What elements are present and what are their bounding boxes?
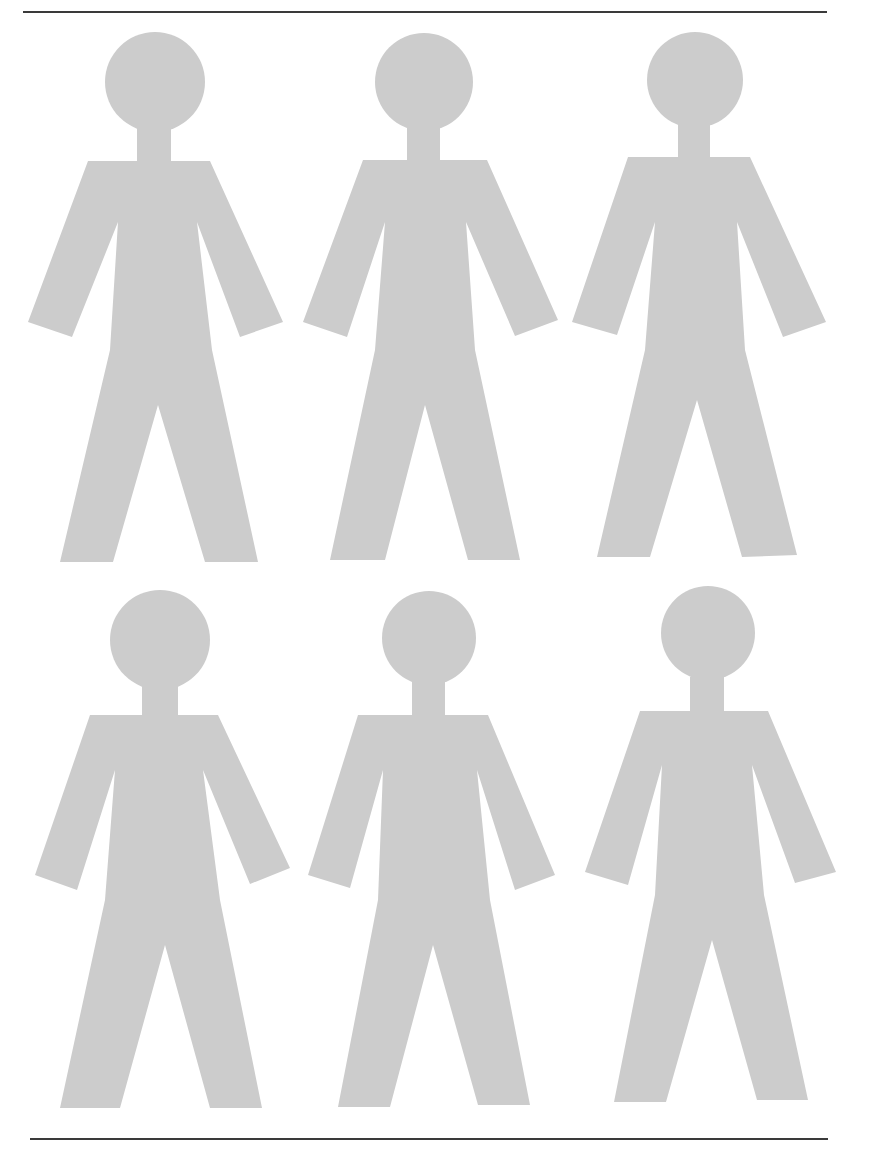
body: [35, 686, 290, 1108]
figures-illustration: [0, 0, 872, 1157]
body: [308, 682, 555, 1107]
body: [303, 128, 558, 560]
body: [28, 128, 283, 562]
body: [585, 677, 836, 1102]
head: [375, 33, 473, 131]
person-figure-4: [35, 590, 290, 1108]
person-figure-5: [308, 591, 555, 1107]
person-figure-3: [572, 32, 826, 557]
head: [105, 32, 205, 132]
head: [647, 32, 743, 128]
body: [572, 125, 826, 557]
head: [382, 591, 476, 685]
person-figure-2: [303, 33, 558, 560]
person-figure-1: [28, 32, 283, 562]
person-figure-6: [585, 586, 836, 1102]
head: [661, 586, 755, 680]
head: [110, 590, 210, 690]
